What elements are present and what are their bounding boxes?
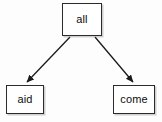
node-come[interactable]: come bbox=[113, 85, 155, 114]
tree-diagram: all aid come bbox=[0, 0, 162, 122]
node-all[interactable]: all bbox=[62, 3, 102, 36]
node-aid[interactable]: aid bbox=[6, 85, 44, 114]
edge-all-to-come bbox=[95, 37, 133, 82]
edge-all-to-aid bbox=[27, 37, 70, 82]
node-come-label: come bbox=[120, 94, 147, 105]
node-aid-label: aid bbox=[18, 94, 33, 105]
node-all-label: all bbox=[76, 14, 87, 25]
